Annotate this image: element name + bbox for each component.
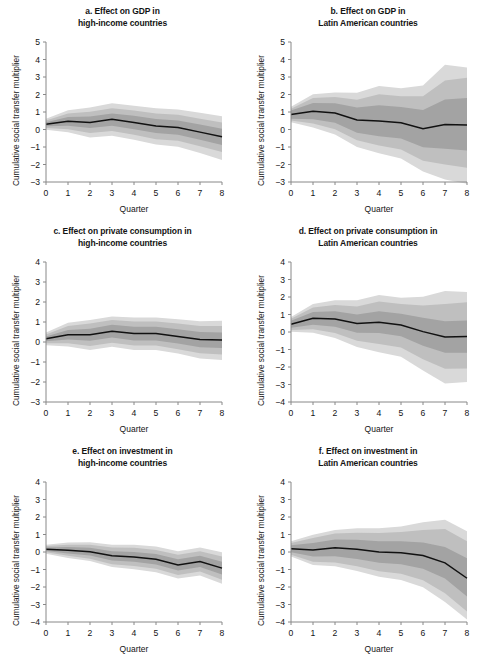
x-tick-label: 0: [289, 628, 294, 638]
chart-panel-b: b. Effect on GDP inLatin American countr…: [245, 0, 491, 220]
y-tick-label: 2: [280, 512, 285, 522]
x-tick-label: 6: [421, 408, 426, 418]
x-tick-label: 5: [399, 628, 404, 638]
x-tick-label: 4: [377, 408, 382, 418]
x-tick-label: 0: [44, 628, 49, 638]
y-tick-label: −2: [275, 582, 285, 592]
x-tick-label: 3: [355, 628, 360, 638]
x-tick-label: 4: [132, 408, 137, 418]
x-tick-label: 7: [198, 628, 203, 638]
y-tick-label: −3: [275, 600, 285, 610]
x-tick-label: 6: [421, 188, 426, 198]
x-tick-label: 4: [377, 188, 382, 198]
x-tick-label: 6: [176, 628, 181, 638]
chart-panel-c: c. Effect on private consumption inhigh-…: [0, 220, 245, 440]
y-tick-label: 2: [35, 512, 40, 522]
y-tick-label: 2: [280, 292, 285, 302]
y-tick-label: 2: [280, 90, 285, 100]
y-tick-label: −4: [30, 617, 40, 627]
y-tick-label: 5: [35, 37, 40, 47]
y-tick-label: 1: [35, 530, 40, 540]
plot-area-b: −3−2−1012345012345678: [245, 0, 490, 220]
y-tick-label: 4: [280, 55, 285, 65]
x-tick-label: 0: [44, 188, 49, 198]
x-tick-label: 7: [198, 188, 203, 198]
y-tick-label: −1: [275, 142, 285, 152]
x-tick-label: 1: [311, 628, 316, 638]
x-tick-label: 0: [289, 408, 294, 418]
y-tick-label: −1: [30, 142, 40, 152]
chart-panel-d: d. Effect on private consumption inLatin…: [245, 220, 491, 440]
y-tick-label: 3: [35, 277, 40, 287]
y-tick-label: 1: [280, 107, 285, 117]
x-tick-label: 8: [220, 408, 225, 418]
y-tick-label: 5: [280, 37, 285, 47]
plot-area-c: −3−2−101234012345678: [0, 220, 245, 440]
y-tick-label: 3: [280, 275, 285, 285]
x-tick-label: 2: [88, 628, 93, 638]
y-tick-label: 0: [35, 125, 40, 135]
x-tick-label: 0: [44, 408, 49, 418]
chart-panel-f: f. Effect on investment inLatin American…: [245, 440, 491, 659]
x-tick-label: 2: [88, 188, 93, 198]
x-tick-label: 1: [311, 408, 316, 418]
x-tick-label: 6: [176, 188, 181, 198]
x-tick-label: 8: [465, 188, 470, 198]
y-tick-label: −2: [30, 160, 40, 170]
y-tick-label: −1: [30, 357, 40, 367]
x-tick-label: 1: [311, 188, 316, 198]
y-tick-label: 3: [280, 495, 285, 505]
x-tick-label: 5: [154, 188, 159, 198]
y-tick-label: −3: [30, 600, 40, 610]
x-tick-label: 8: [220, 628, 225, 638]
x-tick-label: 6: [176, 408, 181, 418]
y-tick-label: −4: [275, 617, 285, 627]
y-tick-label: −2: [275, 362, 285, 372]
y-tick-label: 2: [35, 297, 40, 307]
x-tick-label: 7: [443, 188, 448, 198]
x-tick-label: 3: [110, 628, 115, 638]
x-tick-label: 5: [154, 408, 159, 418]
y-tick-label: 3: [35, 495, 40, 505]
x-tick-label: 8: [465, 408, 470, 418]
x-tick-label: 5: [154, 628, 159, 638]
x-tick-label: 1: [66, 628, 71, 638]
x-tick-label: 1: [66, 188, 71, 198]
y-tick-label: −3: [30, 397, 40, 407]
y-tick-label: −3: [275, 177, 285, 187]
x-tick-label: 7: [443, 628, 448, 638]
y-tick-label: 2: [35, 90, 40, 100]
x-tick-label: 4: [132, 628, 137, 638]
plot-area-a: −3−2−1012345012345678: [0, 0, 245, 220]
y-tick-label: −3: [30, 177, 40, 187]
y-tick-label: −2: [275, 160, 285, 170]
y-tick-label: 4: [35, 477, 40, 487]
y-tick-label: 4: [35, 257, 40, 267]
x-tick-label: 1: [66, 408, 71, 418]
chart-panel-e: e. Effect on investment inhigh-income co…: [0, 440, 245, 659]
x-tick-label: 5: [399, 188, 404, 198]
x-tick-label: 3: [110, 408, 115, 418]
x-tick-label: 2: [333, 408, 338, 418]
plot-area-d: −4−3−2−101234012345678: [245, 220, 490, 440]
y-tick-label: 4: [280, 257, 285, 267]
y-tick-label: 4: [35, 55, 40, 65]
x-tick-label: 4: [132, 188, 137, 198]
chart-panel-a: a. Effect on GDP inhigh-income countries…: [0, 0, 245, 220]
y-tick-label: 1: [35, 107, 40, 117]
x-tick-label: 3: [355, 188, 360, 198]
y-tick-label: −1: [30, 565, 40, 575]
y-tick-label: 1: [280, 530, 285, 540]
y-tick-label: 0: [35, 337, 40, 347]
y-tick-label: −3: [275, 380, 285, 390]
x-tick-label: 7: [198, 408, 203, 418]
x-tick-label: 5: [399, 408, 404, 418]
y-tick-label: −1: [275, 345, 285, 355]
x-tick-label: 7: [443, 408, 448, 418]
y-tick-label: 1: [35, 317, 40, 327]
x-tick-label: 8: [220, 188, 225, 198]
y-tick-label: 3: [35, 72, 40, 82]
x-tick-label: 4: [377, 628, 382, 638]
y-tick-label: 0: [35, 547, 40, 557]
y-tick-label: 0: [280, 327, 285, 337]
